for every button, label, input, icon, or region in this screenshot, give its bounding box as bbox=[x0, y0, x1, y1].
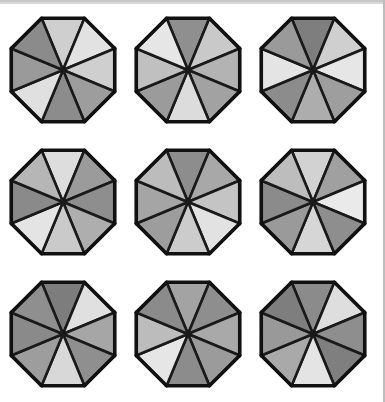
figure-canvas bbox=[0, 0, 385, 402]
octagon-r1c2-shape bbox=[129, 11, 247, 129]
octagon-r3c2 bbox=[125, 268, 250, 400]
octagon-r3c1 bbox=[0, 268, 125, 400]
octagon-r2c1 bbox=[0, 136, 125, 268]
octagon-grid bbox=[0, 4, 375, 400]
octagon-r2c2-shape bbox=[129, 143, 247, 261]
octagon-r2c3-shape bbox=[254, 143, 372, 261]
octagon-r3c2-shape bbox=[129, 275, 247, 393]
octagon-r1c3 bbox=[250, 4, 375, 136]
octagon-r1c3-shape bbox=[254, 11, 372, 129]
octagon-r3c3 bbox=[250, 268, 375, 400]
octagon-r1c1-shape bbox=[4, 11, 122, 129]
octagon-r3c3-shape bbox=[254, 275, 372, 393]
octagon-r2c2 bbox=[125, 136, 250, 268]
octagon-r2c3 bbox=[250, 136, 375, 268]
octagon-r3c1-shape bbox=[4, 275, 122, 393]
scan-artifact-top-bar-inner bbox=[0, 0, 385, 2]
octagon-r1c2 bbox=[125, 4, 250, 136]
octagon-r2c1-shape bbox=[4, 143, 122, 261]
octagon-r1c1 bbox=[0, 4, 125, 136]
